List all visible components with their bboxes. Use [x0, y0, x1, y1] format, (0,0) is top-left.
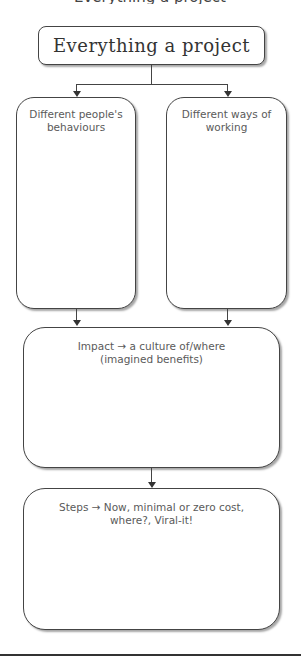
node-steps-text: Steps → Now, minimal or zero cost, where… — [59, 501, 244, 526]
arrow-right-to-impact-icon — [224, 320, 232, 326]
connector-impact-to-steps — [151, 468, 152, 482]
node-impact: Impact → a culture of/where (imagined be… — [23, 327, 280, 468]
node-behaviours: Different people's behaviours — [16, 97, 136, 309]
title-node: Everything a project — [38, 26, 265, 65]
connector-title-down — [151, 65, 152, 84]
node-ways-of-working: Different ways of working — [166, 97, 287, 309]
clipped-heading: Everything a project — [60, 0, 240, 4]
connector-horizontal — [76, 84, 228, 85]
node-ways-of-working-text: Different ways of working — [182, 108, 272, 133]
arrow-left-to-impact-icon — [73, 320, 81, 326]
node-impact-text: Impact → a culture of/where (imagined be… — [78, 340, 225, 365]
node-steps: Steps → Now, minimal or zero cost, where… — [23, 488, 280, 630]
node-behaviours-text: Different people's behaviours — [29, 108, 122, 133]
title-text: Everything a project — [53, 35, 250, 56]
bottom-divider — [0, 654, 301, 656]
